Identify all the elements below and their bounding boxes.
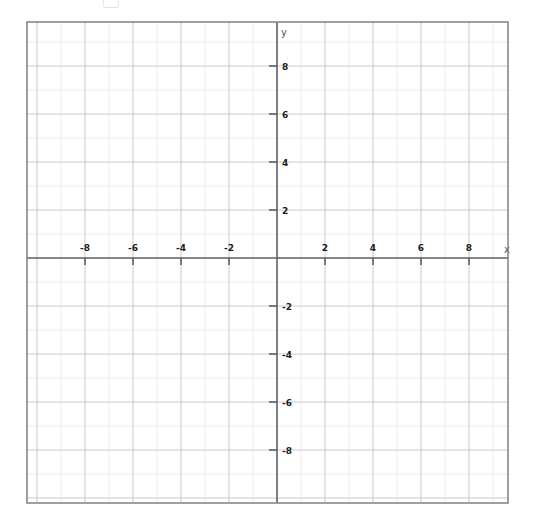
y-tick-label: 4 (282, 158, 288, 168)
y-tick-label: 2 (282, 206, 288, 216)
x-axis-label: x (504, 244, 510, 255)
y-tick-label: -6 (282, 398, 292, 408)
y-tick-label: -2 (282, 302, 292, 312)
coordinate-plane: -8-6-4-22468 8642-2-4-6-8 x y (0, 0, 537, 512)
x-tick-label: 4 (370, 243, 376, 253)
x-tick-label: 6 (418, 243, 424, 253)
y-tick-label: 6 (282, 110, 288, 120)
y-axis-label: y (281, 27, 287, 38)
x-tick-label: -8 (80, 243, 90, 253)
x-tick-label: 2 (322, 243, 328, 253)
x-tick-label: -6 (128, 243, 138, 253)
y-tick-label: -4 (282, 350, 292, 360)
y-tick-label: -8 (282, 446, 292, 456)
x-tick-label: -4 (176, 243, 186, 253)
plot-background (27, 22, 508, 503)
coordinate-grid-figure: -8-6-4-22468 8642-2-4-6-8 x y (0, 0, 537, 512)
x-tick-label: 8 (466, 243, 472, 253)
y-tick-label: 8 (282, 62, 288, 72)
x-tick-label: -2 (224, 243, 234, 253)
